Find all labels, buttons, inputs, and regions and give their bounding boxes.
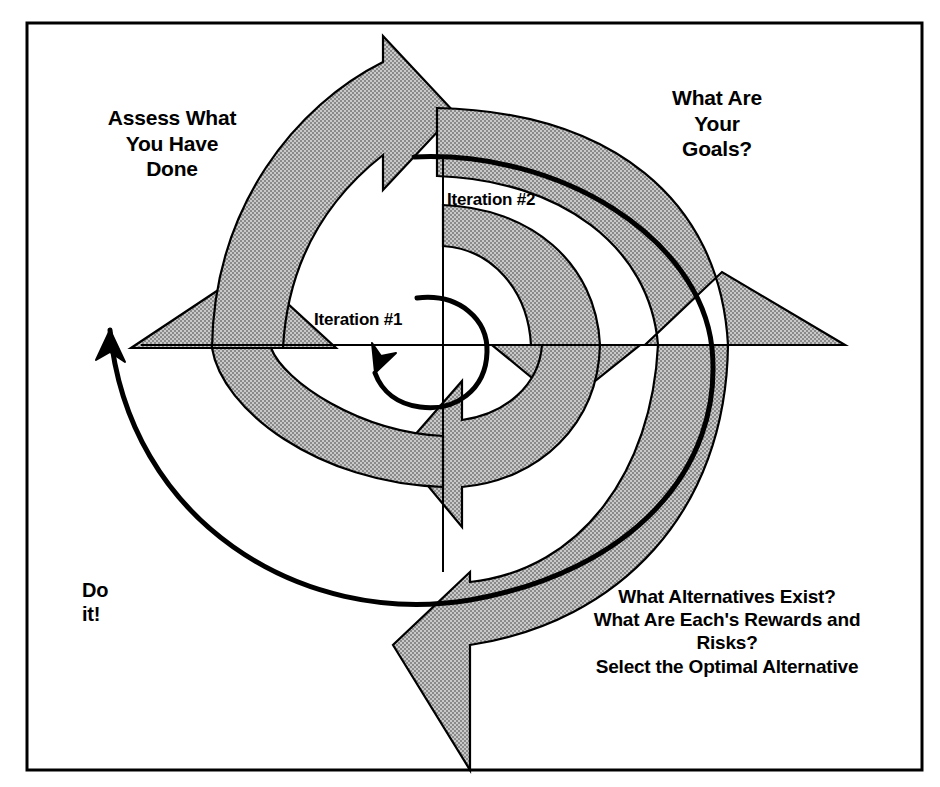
- diagram-page: Assess What You Have Done What Are Your …: [0, 0, 940, 787]
- label-do-it: Do it!: [82, 578, 202, 627]
- label-alternatives-block: What Alternatives Exist? What Are Each's…: [557, 585, 897, 678]
- label-iteration-2: Iteration #2: [447, 190, 535, 211]
- label-assess-what-you-have-done: Assess What You Have Done: [62, 105, 282, 182]
- label-iteration-1: Iteration #1: [314, 310, 402, 331]
- label-what-are-your-goals: What Are Your Goals?: [612, 85, 822, 162]
